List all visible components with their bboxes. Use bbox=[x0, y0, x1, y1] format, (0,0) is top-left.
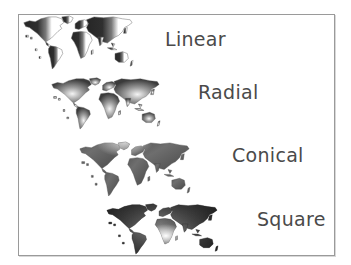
world-map-linear bbox=[20, 14, 134, 70]
label-linear: Linear bbox=[165, 30, 226, 49]
label-square: Square bbox=[257, 210, 326, 229]
world-map-radial bbox=[48, 76, 161, 130]
label-radial: Radial bbox=[198, 83, 259, 102]
world-map-conical bbox=[76, 140, 191, 197]
world-map-square bbox=[103, 202, 219, 255]
label-conical: Conical bbox=[232, 146, 304, 165]
